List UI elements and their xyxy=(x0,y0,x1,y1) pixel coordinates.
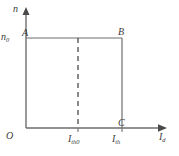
point-label-a: A xyxy=(22,28,28,38)
y-axis-label: n xyxy=(13,4,18,14)
y-tick-n0-sub: 0 xyxy=(6,36,9,43)
x-tick-label-ith: Ith xyxy=(112,134,120,144)
point-label-b: B xyxy=(118,27,124,37)
diagram-canvas xyxy=(0,0,179,156)
carrier-density-vs-drive-current-diagram: n n0 A B C O Ith0 Ith Id xyxy=(0,0,179,156)
x-tick-ith-sub: th xyxy=(115,138,120,145)
y-axis-arrow-icon xyxy=(23,7,30,15)
point-label-c: C xyxy=(118,118,125,128)
x-tick-ith0-sub: th0 xyxy=(71,138,79,145)
x-tick-label-ith0: Ith0 xyxy=(68,134,80,144)
origin-label: O xyxy=(6,131,13,141)
y-tick-label-n0: n0 xyxy=(1,32,9,42)
x-axis-label: Id xyxy=(159,132,166,142)
x-axis-label-sub: d xyxy=(162,136,165,143)
